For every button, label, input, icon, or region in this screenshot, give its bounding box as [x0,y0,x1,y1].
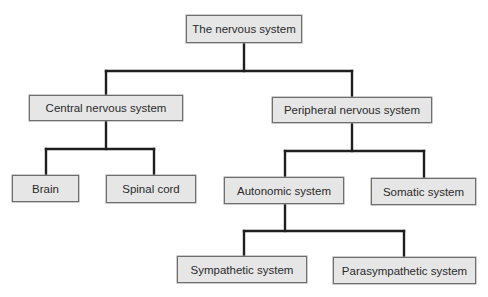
node-spinal-cord: Spinal cord [106,175,196,203]
node-label: Autonomic system [237,185,331,197]
node-label: Sympathetic system [191,264,294,276]
node-label: Central nervous system [46,102,167,114]
node-label: Somatic system [383,186,464,198]
node-peripheral-nervous-system: Peripheral nervous system [272,97,432,123]
node-somatic-system: Somatic system [371,178,476,205]
connector-lines [0,0,488,297]
node-nervous-system: The nervous system [186,15,302,43]
node-label: Peripheral nervous system [284,104,420,116]
node-central-nervous-system: Central nervous system [29,95,183,121]
node-label: The nervous system [192,23,296,35]
node-parasympathetic-system: Parasympathetic system [333,257,476,284]
node-label: Brain [32,183,59,195]
node-sympathetic-system: Sympathetic system [177,256,307,283]
node-brain: Brain [12,175,79,202]
node-label: Parasympathetic system [342,265,467,277]
nervous-system-tree-diagram: The nervous system Central nervous syste… [0,0,488,297]
node-label: Spinal cord [122,183,180,195]
node-autonomic-system: Autonomic system [224,177,344,204]
